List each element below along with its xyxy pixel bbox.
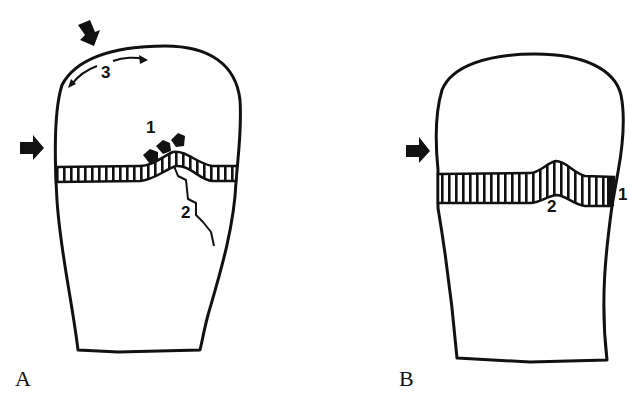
small-arrow-1-icon (143, 149, 158, 164)
arrow-left-b-icon (406, 137, 430, 163)
arrow-left-icon (20, 135, 44, 160)
figure-canvas: 1 2 3 A 1 2 B (0, 0, 630, 401)
panel-label-b: B (399, 366, 414, 391)
callout-a-3: 3 (101, 63, 110, 82)
curved-arrow-right-icon (113, 58, 143, 61)
callout-a-2: 2 (181, 203, 190, 222)
bone-b-outline (436, 54, 623, 362)
small-arrow-3-icon (171, 133, 185, 147)
zone-1-marker (607, 177, 614, 206)
arrow-top-icon (78, 20, 100, 46)
physis-b (438, 161, 614, 206)
callout-b-2: 2 (547, 197, 556, 216)
panel-label-a: A (15, 366, 31, 391)
panel-a: 1 2 3 A (15, 20, 241, 391)
small-arrow-2-icon (156, 140, 171, 154)
callout-b-1: 1 (618, 185, 627, 204)
callout-a-1: 1 (146, 118, 155, 137)
panel-b: 1 2 B (399, 54, 627, 391)
bone-a-outline (55, 46, 240, 352)
curved-arrowhead-right-icon (139, 55, 148, 64)
